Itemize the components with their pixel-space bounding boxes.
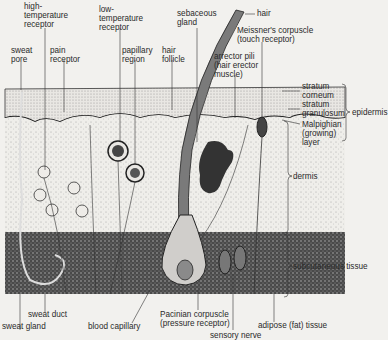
label-sweat-gland: sweat gland: [2, 322, 46, 331]
label-epidermis: epidermis: [352, 108, 388, 117]
label-sebaceous-gland: sebaceous gland: [177, 9, 217, 27]
label-low-temperature-receptor: low- temperature receptor: [99, 5, 143, 32]
label-hair: hair: [257, 9, 271, 18]
label-hair-follicle: hair follicle: [162, 46, 185, 64]
label-adipose-tissue: adipose (fat) tissue: [258, 321, 327, 330]
label-papillary-region: papillary region: [122, 46, 153, 64]
meissner-corpuscle-shape: [257, 117, 267, 137]
label-pain-receptor: pain receptor: [50, 46, 80, 64]
label-dermis: dermis: [293, 172, 318, 181]
label-subcutaneous-tissue: subcutaneous tissue: [293, 262, 368, 271]
label-meissners-corpuscle: Meissner's corpuscle (touch receptor): [237, 26, 313, 44]
label-stratum-corneum: stratum corneum: [302, 82, 334, 100]
label-stratum-granulosum: stratum granulosum: [302, 100, 345, 118]
label-pacinian-corpuscle: Pacinian corpuscle (pressure receptor): [160, 310, 230, 328]
label-blood-capillary: blood capillary: [88, 322, 140, 331]
label-high-temperature-receptor: high- temperature receptor: [24, 2, 68, 29]
label-sweat-pore: sweat pore: [11, 46, 32, 64]
label-sweat-duct: sweat duct: [28, 310, 67, 319]
label-malpighian-layer: Malpighian (growing) layer: [302, 120, 342, 147]
label-sensory-nerve: sensory nerve: [210, 331, 261, 340]
label-arrector-pili: arrector pili (hair erector muscle): [214, 52, 258, 79]
